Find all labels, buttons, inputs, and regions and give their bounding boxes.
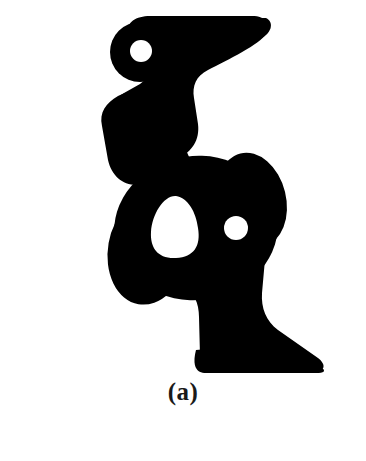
- figure-panel: (a): [0, 0, 366, 461]
- top-crop-mask: [0, 0, 366, 16]
- figure-caption: (a): [0, 372, 366, 412]
